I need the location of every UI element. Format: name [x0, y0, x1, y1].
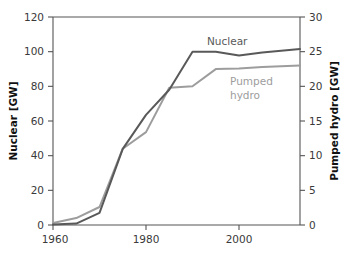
left-tick-label-60: 60	[31, 115, 44, 127]
x-tick-label-1960: 1960	[42, 233, 69, 245]
right-tick-label-25: 25	[309, 45, 322, 57]
right-axis-title: Pumped hydro [GW]	[328, 61, 340, 181]
left-tick-label-0: 0	[37, 219, 44, 231]
right-tick-label-5: 5	[309, 184, 316, 196]
x-tick-label-2000: 2000	[226, 233, 253, 245]
left-tick-label-100: 100	[24, 45, 44, 57]
dual-axis-line-chart: 0 20 40 60 80 100 120 0 5 10 15 20 25 30	[0, 0, 350, 258]
right-tick-label-10: 10	[309, 149, 322, 161]
x-axis-ticks: 1960 1980 2000	[42, 225, 253, 245]
left-axis-ticks: 0 20 40 60 80 100 120	[24, 11, 53, 231]
left-tick-label-120: 120	[24, 11, 44, 23]
right-tick-label-15: 15	[309, 115, 322, 127]
series-label-pumped-hydro-line2: hydro	[230, 89, 260, 101]
right-tick-label-0: 0	[309, 219, 316, 231]
series-label-pumped-hydro-line1: Pumped	[230, 75, 273, 87]
chart-figure: 0 20 40 60 80 100 120 0 5 10 15 20 25 30	[0, 0, 350, 258]
right-axis-ticks: 0 5 10 15 20 25 30	[300, 11, 322, 231]
left-tick-label-80: 80	[31, 80, 44, 92]
right-tick-label-30: 30	[309, 11, 322, 23]
axis-frame	[53, 17, 300, 225]
right-tick-label-20: 20	[309, 80, 322, 92]
series-label-nuclear: Nuclear	[207, 35, 248, 47]
left-axis-title: Nuclear [GW]	[7, 82, 19, 161]
x-tick-label-1980: 1980	[133, 233, 160, 245]
left-tick-label-40: 40	[31, 149, 44, 161]
left-tick-label-20: 20	[31, 184, 44, 196]
series-line-pumped-hydro	[53, 66, 300, 223]
